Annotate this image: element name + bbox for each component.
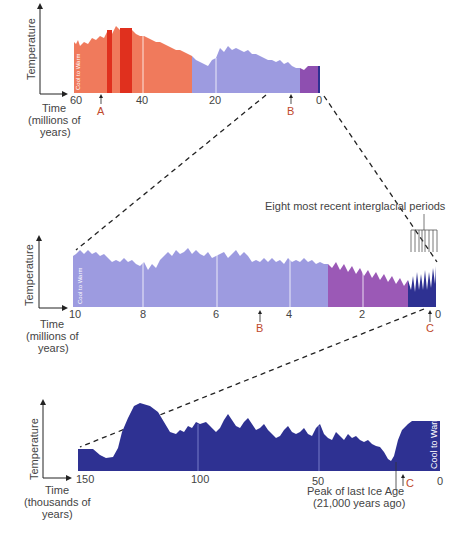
bottom-panel: Temperature Cool to Warm 150 100 50 0 Pe…	[24, 399, 443, 520]
middle-y-axis-arrow-icon	[36, 235, 42, 241]
marker-c-middle-arrow-icon	[428, 310, 432, 314]
middle-area-purple	[328, 262, 408, 307]
middle-tick-4: 4	[286, 308, 292, 320]
marker-b-top: B	[287, 105, 294, 117]
top-tick-0: 0	[316, 94, 322, 106]
marker-a-arrow-icon	[99, 94, 103, 98]
top-x-label-1: Time	[42, 102, 66, 114]
middle-tick-0: 0	[435, 308, 441, 320]
top-area-warm	[74, 26, 192, 93]
top-x-label-2: (millions of	[28, 114, 82, 126]
marker-a: A	[97, 105, 105, 117]
bottom-x-axis-arrow-icon	[66, 475, 72, 481]
zoom-line-left-1	[76, 95, 266, 250]
bottom-y-axis-arrow-icon	[40, 399, 46, 405]
marker-b-top-arrow-icon	[289, 94, 293, 98]
marker-b-middle: B	[256, 322, 263, 334]
top-hot-band-1	[107, 30, 112, 93]
middle-panel: Temperature Cool to Warm 10 8 6 4 2 0 B …	[23, 200, 446, 354]
interglacial-bracket	[411, 214, 437, 252]
ice-age-annotation-2: (21,000 years ago)	[313, 497, 405, 509]
bottom-x-label-3: years)	[42, 508, 73, 520]
bottom-tick-150: 150	[76, 473, 94, 485]
middle-x-axis-arrow-icon	[62, 305, 68, 311]
top-y-label: Temperature	[25, 18, 37, 80]
top-x-axis-arrow-icon	[62, 91, 68, 97]
middle-x-label-1: Time	[40, 318, 64, 330]
bottom-tick-0: 0	[437, 475, 443, 487]
top-scale-label: Cool to Warm	[75, 54, 81, 90]
top-area-cool	[192, 46, 300, 93]
bottom-area-deep	[78, 403, 440, 471]
marker-b-middle-arrow-icon	[258, 310, 262, 314]
middle-x-label-2: (millions of	[26, 330, 80, 342]
zoom-line-right-1	[324, 96, 437, 262]
top-tick-20: 20	[209, 94, 221, 106]
middle-x-label-3: years)	[38, 342, 69, 354]
middle-tick-2: 2	[359, 308, 365, 320]
top-y-axis-arrow-icon	[37, 3, 43, 9]
top-area-purple	[300, 66, 318, 93]
bottom-y-label: Temperature	[28, 418, 40, 480]
middle-tick-8: 8	[140, 308, 146, 320]
bottom-tick-100: 100	[191, 473, 209, 485]
interglacial-annotation: Eight most recent interglacial periods	[265, 200, 446, 212]
top-x-label-3: years)	[40, 126, 71, 138]
top-area-deep	[318, 66, 320, 93]
bottom-x-label-1: Time	[45, 484, 69, 496]
marker-c-middle: C	[426, 322, 434, 334]
middle-tick-6: 6	[213, 308, 219, 320]
top-tick-40: 40	[136, 94, 148, 106]
middle-area-deep	[408, 266, 436, 307]
middle-tick-10: 10	[69, 308, 81, 320]
marker-c-bottom: C	[406, 477, 414, 489]
ice-age-annotation-1: Peak of last Ice Age	[307, 485, 404, 497]
middle-y-label: Temperature	[23, 244, 35, 306]
top-panel: Temperature Cool to Warm 60 40 20 0 A B …	[25, 3, 322, 138]
bottom-scale-label: Cool to Warm	[429, 414, 439, 469]
marker-c-bottom-arrow-icon	[401, 474, 405, 478]
top-tick-60: 60	[70, 94, 82, 106]
middle-scale-label: Cool to Warm	[77, 268, 83, 304]
bottom-x-label-2: (thousands of	[24, 496, 92, 508]
top-hot-band-2	[120, 28, 132, 93]
